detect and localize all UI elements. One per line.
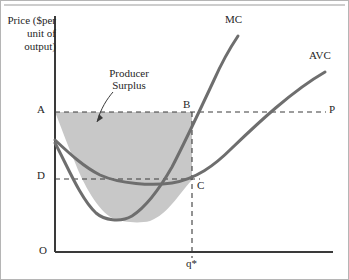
producer-surplus-figure: Price ($per unit of output) MC AVC Produ… bbox=[0, 0, 349, 280]
point-b-label: B bbox=[183, 99, 190, 111]
optimal-quantity-label: q* bbox=[186, 258, 197, 270]
point-c-label: C bbox=[197, 180, 204, 192]
y-axis-title: Price ($per unit of output) bbox=[0, 14, 56, 53]
producer-surplus-label: Producer Surplus bbox=[92, 68, 166, 92]
price-level-a-label: A bbox=[37, 104, 45, 116]
price-level-d-label: D bbox=[37, 170, 45, 182]
avc-curve-label: AVC bbox=[309, 50, 331, 62]
mc-curve-label: MC bbox=[225, 14, 242, 26]
price-line-p-label: P bbox=[329, 104, 335, 116]
origin-label: O bbox=[39, 245, 47, 257]
